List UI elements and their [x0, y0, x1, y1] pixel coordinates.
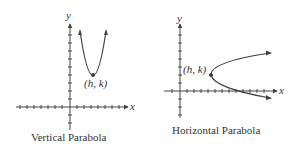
y-axis-label-left: y [66, 9, 71, 21]
x-axis-label-right: x [279, 84, 284, 96]
y-axis-label-right: y [177, 12, 182, 24]
vertex-label-right: (h, k) [183, 63, 206, 75]
caption-horizontal-parabola: Horizontal Parabola [172, 124, 260, 136]
caption-vertical-parabola: Vertical Parabola [31, 131, 106, 143]
horizontal-parabola-graph [164, 24, 277, 118]
vertical-parabola-graph [16, 24, 128, 130]
vertex-point [209, 73, 212, 76]
parabola-curve [80, 31, 106, 76]
x-axis-label-left: x [130, 100, 135, 112]
vertex-label-left: (h, k) [84, 77, 107, 89]
